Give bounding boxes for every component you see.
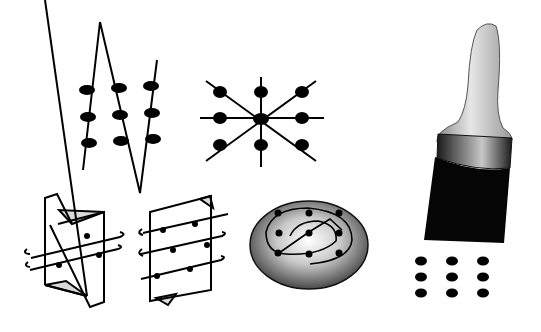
- radial-star-panel: [200, 77, 324, 167]
- brush-bristles: [424, 157, 510, 243]
- zigzag-dots-panel: [79, 22, 161, 193]
- center-node: [253, 113, 269, 125]
- brush-handle: [437, 24, 512, 142]
- spiral-disc-panel: [250, 201, 368, 289]
- twisted-sheet-left-panel: [25, 0, 124, 307]
- zigzag-line: [83, 22, 157, 193]
- dot-grid: [79, 81, 161, 148]
- paint-brush-panel: [415, 24, 512, 298]
- twisted-sheet-right-panel: [139, 196, 228, 305]
- brush-dot-grid: [415, 257, 489, 298]
- figure-canvas: [0, 0, 541, 332]
